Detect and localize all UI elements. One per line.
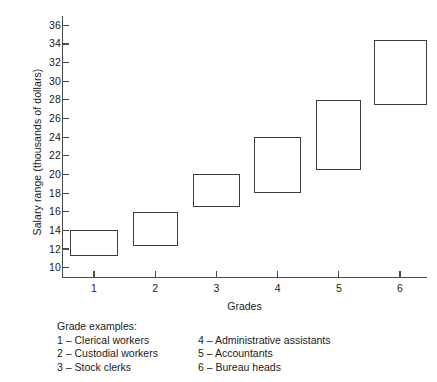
y-tick-label: 22 xyxy=(37,150,61,160)
x-tick xyxy=(338,271,339,277)
y-tick xyxy=(63,174,69,175)
x-tick xyxy=(399,271,400,277)
y-tick xyxy=(63,25,69,26)
y-tick-label: 36 xyxy=(37,20,61,30)
y-tick-label: 26 xyxy=(37,113,61,123)
x-tick xyxy=(216,271,217,277)
y-tick-label: 34 xyxy=(37,38,61,48)
y-tick xyxy=(63,193,69,194)
range-box xyxy=(374,40,427,105)
x-axis-title: Grades xyxy=(62,300,427,312)
y-tick xyxy=(63,118,69,119)
y-tick xyxy=(63,43,69,44)
y-tick-label: 24 xyxy=(37,132,61,142)
x-tick-label: 4 xyxy=(268,283,288,294)
x-tick-label: 5 xyxy=(329,283,349,294)
y-tick-label: 14 xyxy=(37,225,61,235)
legend-item: 2 – Custodial workers xyxy=(57,347,198,360)
chart-figure: Salary range (thousands of dollars) 1012… xyxy=(0,0,437,382)
range-box xyxy=(193,174,240,207)
x-tick-label: 2 xyxy=(145,283,165,294)
y-tick-label: 30 xyxy=(37,76,61,86)
legend-column-right: 4 – Administrative assistants 5 – Accoun… xyxy=(198,334,330,374)
y-tick xyxy=(63,248,69,249)
y-tick xyxy=(63,230,69,231)
range-box xyxy=(70,230,118,256)
legend-item: 1 – Clerical workers xyxy=(57,334,198,347)
y-tick xyxy=(63,211,69,212)
y-tick xyxy=(63,81,69,82)
x-tick-label: 1 xyxy=(84,283,104,294)
legend: Grade examples: 1 – Clerical workers 2 –… xyxy=(57,320,330,374)
x-tick xyxy=(93,271,94,277)
y-tick-label: 18 xyxy=(37,188,61,198)
legend-item: 4 – Administrative assistants xyxy=(198,334,330,347)
legend-title: Grade examples: xyxy=(57,320,330,333)
legend-item: 5 – Accountants xyxy=(198,347,330,360)
x-tick-label: 3 xyxy=(206,283,226,294)
x-tick xyxy=(155,271,156,277)
legend-item: 6 – Bureau heads xyxy=(198,361,330,374)
y-tick-label: 12 xyxy=(37,244,61,254)
y-tick xyxy=(63,267,69,268)
x-axis-line xyxy=(62,277,427,278)
y-tick-label: 16 xyxy=(37,206,61,216)
range-box xyxy=(133,212,178,246)
y-axis-line xyxy=(62,16,63,278)
y-tick xyxy=(63,99,69,100)
y-tick xyxy=(63,137,69,138)
y-tick-label: 10 xyxy=(37,262,61,272)
legend-column-left: 1 – Clerical workers 2 – Custodial worke… xyxy=(57,334,198,374)
y-tick xyxy=(63,155,69,156)
x-tick xyxy=(277,271,278,277)
range-box xyxy=(254,137,301,193)
range-box xyxy=(316,100,361,170)
y-tick xyxy=(63,62,69,63)
legend-item: 3 – Stock clerks xyxy=(57,361,198,374)
y-tick-label: 32 xyxy=(37,57,61,67)
y-tick-label: 20 xyxy=(37,169,61,179)
x-tick-label: 6 xyxy=(390,283,410,294)
y-tick-label: 28 xyxy=(37,94,61,104)
